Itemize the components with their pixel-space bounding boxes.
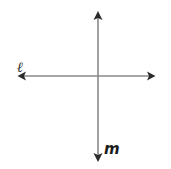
line-label-m: m — [104, 142, 120, 157]
line-label-l: ℓ — [17, 60, 23, 74]
intersecting-lines-svg — [0, 0, 171, 169]
geometry-figure: ℓ m — [0, 0, 171, 169]
